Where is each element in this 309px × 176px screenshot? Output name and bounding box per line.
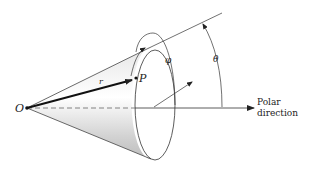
azimuth-label: φ: [165, 55, 172, 65]
azimuth-arc: [136, 33, 175, 105]
theta-label: θ: [213, 54, 219, 64]
cone-diagram: O P r φ θ Polar direction: [0, 0, 309, 176]
polar-angle-arc: [203, 24, 222, 107]
origin-label: O: [15, 102, 24, 115]
polar-direction-label-1: Polar: [257, 97, 281, 107]
cone-base-ellipse: [135, 50, 175, 160]
polar-direction-label-2: direction: [257, 108, 298, 118]
origin-point: [25, 106, 29, 110]
point-p: [134, 76, 137, 79]
base-normal-arrow: [154, 82, 192, 107]
point-label: P: [138, 72, 147, 85]
